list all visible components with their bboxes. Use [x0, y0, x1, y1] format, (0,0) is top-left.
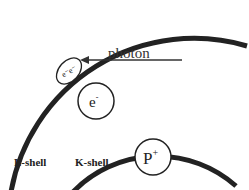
k-shell-label: K-shell	[75, 156, 109, 168]
l-shell-label: L-shell	[14, 156, 46, 168]
photon-label: photon	[108, 45, 150, 61]
atom-shell-diagram: e⁻e⁻ photon e- P+ L-shell K-shell	[0, 0, 249, 190]
